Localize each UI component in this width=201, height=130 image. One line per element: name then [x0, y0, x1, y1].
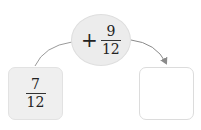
start-denominator: 12 — [27, 95, 45, 110]
result-answer-box[interactable] — [139, 67, 194, 120]
operation-denominator: 12 — [102, 42, 120, 57]
start-fraction: 7 12 — [26, 77, 46, 110]
start-value-box: 7 12 — [8, 67, 63, 120]
connector-arrow-out — [131, 40, 166, 63]
operation-numerator: 9 — [106, 24, 115, 39]
operation-bubble: + 9 12 — [71, 14, 131, 66]
operator-sign: + — [81, 30, 98, 50]
start-numerator: 7 — [31, 77, 40, 92]
operation-fraction: 9 12 — [101, 24, 121, 57]
connector-line-in — [35, 42, 72, 66]
